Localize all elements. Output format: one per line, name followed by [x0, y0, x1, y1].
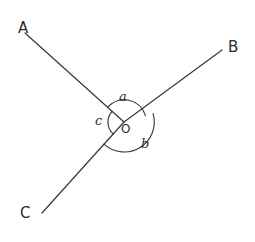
ray-ob-line: [124, 50, 222, 122]
ray-oc-line: [42, 122, 124, 213]
angle-c-arc: [108, 111, 113, 134]
angle-label-c: c: [95, 114, 102, 127]
vertex-label-o: O: [121, 123, 130, 135]
point-label-b: B: [228, 40, 238, 55]
ray-oa-line: [25, 33, 124, 122]
point-label-a: A: [18, 21, 28, 36]
angle-label-a: a: [119, 90, 127, 103]
angle-diagram-canvas: A B C O a b c: [0, 0, 255, 242]
angle-label-b: b: [141, 137, 149, 150]
geometry-svg: [0, 0, 255, 242]
point-label-c: C: [20, 206, 30, 221]
